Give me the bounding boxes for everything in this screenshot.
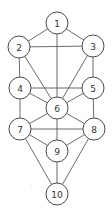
node-label: 2 xyxy=(16,43,22,53)
node-10: 10 xyxy=(46,183,68,205)
node-5: 5 xyxy=(82,77,104,99)
node-1: 1 xyxy=(46,12,68,34)
node-label: 6 xyxy=(54,104,60,114)
nodes-layer: 12345678910 xyxy=(8,12,105,205)
node-label: 3 xyxy=(90,42,96,52)
node-9: 9 xyxy=(46,140,68,162)
node-label: 8 xyxy=(91,125,97,135)
node-4: 4 xyxy=(9,77,31,99)
node-label: 5 xyxy=(90,84,96,94)
noise-speck xyxy=(30,185,31,186)
node-label: 10 xyxy=(51,190,63,200)
node-2: 2 xyxy=(8,36,30,58)
node-6: 6 xyxy=(46,97,68,119)
node-label: 7 xyxy=(17,125,23,135)
node-3: 3 xyxy=(82,35,104,57)
node-7: 7 xyxy=(9,118,31,140)
graph-diagram: 12345678910 xyxy=(0,0,112,210)
node-8: 8 xyxy=(83,118,105,140)
node-label: 4 xyxy=(17,84,23,94)
node-label: 9 xyxy=(54,147,60,157)
node-label: 1 xyxy=(54,19,60,29)
